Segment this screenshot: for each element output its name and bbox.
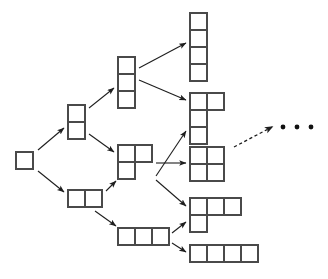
edge-domino-vertical-to-tromino-l (89, 134, 114, 152)
cell (207, 245, 224, 262)
cell (118, 57, 135, 74)
cell (190, 147, 207, 164)
cell (207, 198, 224, 215)
cell (207, 147, 224, 164)
cell (241, 245, 258, 262)
cell (68, 122, 85, 139)
cell (190, 164, 207, 181)
edge-tromino-horizontal-to-tetromino-horizontal (172, 243, 186, 252)
edge-monomino-to-domino-vertical (38, 128, 64, 150)
ellipsis-group (281, 125, 314, 130)
cell (190, 245, 207, 262)
cell (207, 93, 224, 110)
cell (16, 152, 33, 169)
cell (190, 127, 207, 144)
cell (118, 162, 135, 179)
edge-tetromino-square-to-continuation (234, 127, 272, 147)
cell (68, 105, 85, 122)
polyomino-monomino (16, 152, 33, 169)
cell (118, 228, 135, 245)
cell (190, 64, 207, 81)
diagram-canvas (0, 0, 328, 279)
cell (224, 198, 241, 215)
cell (68, 190, 85, 207)
ellipsis-dot-3 (309, 125, 314, 130)
polyomino-tetromino-l (190, 198, 241, 232)
polyomino-tetromino-j (190, 93, 224, 144)
cell (207, 164, 224, 181)
polyomino-tetromino-square (190, 147, 224, 181)
polyomino-domino-vertical (68, 105, 85, 139)
cell (190, 30, 207, 47)
edge-monomino-to-domino-horizontal (38, 171, 64, 192)
cell (135, 145, 152, 162)
cell (118, 74, 135, 91)
polyomino-tetromino-horizontal (190, 245, 258, 262)
edge-tromino-l-to-tetromino-l (156, 180, 186, 206)
edges-layer (38, 43, 272, 252)
edge-tromino-horizontal-to-tetromino-l (172, 222, 186, 233)
cell (152, 228, 169, 245)
polyomino-domino-horizontal (68, 190, 102, 207)
cell (190, 110, 207, 127)
polyomino-growth-diagram (0, 0, 328, 279)
ellipsis-dot-2 (295, 125, 300, 130)
cell (190, 13, 207, 30)
edge-domino-horizontal-to-tromino-l (106, 181, 116, 191)
edge-tromino-vertical-to-tetromino-vertical (139, 43, 186, 68)
cell (190, 198, 207, 215)
cell (190, 47, 207, 64)
cell (190, 93, 207, 110)
edge-tromino-l-to-tetromino-j (156, 131, 186, 176)
polyomino-tromino-horizontal (118, 228, 169, 245)
polyomino-tromino-l (118, 145, 152, 179)
cell (190, 215, 207, 232)
polyomino-tetromino-vertical (190, 13, 207, 81)
cell (135, 228, 152, 245)
cell (118, 145, 135, 162)
cell (118, 91, 135, 108)
edge-domino-vertical-to-tromino-vertical (89, 88, 114, 108)
polyomino-tromino-vertical (118, 57, 135, 108)
edge-tromino-vertical-to-tetromino-j (139, 80, 186, 100)
cell (224, 245, 241, 262)
edge-domino-horizontal-to-tromino-horizontal (95, 211, 116, 226)
ellipsis-dot-1 (281, 125, 286, 130)
cell (85, 190, 102, 207)
